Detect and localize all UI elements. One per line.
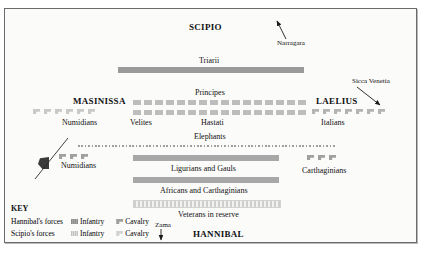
cavalry-token xyxy=(323,109,330,114)
infantry-swatch-icon xyxy=(71,231,78,236)
key-infantry-label: Infantry xyxy=(80,217,104,226)
commander-scipio: SCIPIO xyxy=(189,23,222,32)
cavalry-swatch-icon xyxy=(116,219,123,224)
cavalry-token xyxy=(70,154,77,159)
cavalry-token xyxy=(367,109,374,114)
unit-bar-hastati xyxy=(133,110,308,115)
arrow-narragara xyxy=(277,21,286,39)
unit-bar-principes xyxy=(133,100,308,105)
unit-tokens-roman-right-cavalry xyxy=(312,109,389,114)
unit-bar-ligurians-and-gauls xyxy=(133,155,279,161)
unit-label-elephants: Elephants xyxy=(194,133,226,141)
unit-label-carthaginian-numidians: Numidians xyxy=(61,162,96,170)
movement-arrowhead-left xyxy=(38,157,49,169)
commander-hannibal: HANNIBAL xyxy=(193,230,244,239)
battle-diagram-zama: SCIPIO Narragara Triarii Sicca Venetia P… xyxy=(0,0,423,255)
key-row-scipio: Scipio's forces Infantry Cavalry xyxy=(11,229,161,238)
unit-bar-triarii xyxy=(118,67,304,73)
infantry-swatch-icon xyxy=(71,219,78,224)
unit-label-italians: Italians xyxy=(321,119,345,127)
place-label-sicca-venetia: Sicca Venetia xyxy=(352,78,390,85)
cavalry-token xyxy=(88,109,95,114)
key-row-hannibal: Hannibal's forces Infantry Cavalry xyxy=(11,217,161,226)
unit-tokens-carthaginian-right-cavalry xyxy=(307,155,340,160)
key-cavalry-label: Cavalry xyxy=(125,217,149,226)
cavalry-token xyxy=(307,155,314,160)
unit-bar-veterans-in-reserve xyxy=(133,200,281,208)
cavalry-swatch-icon xyxy=(116,231,123,236)
cavalry-token xyxy=(81,154,88,159)
key-force-label: Hannibal's forces xyxy=(11,217,71,226)
unit-bar-africans-and-carthaginians xyxy=(133,177,279,183)
unit-bar-elephants xyxy=(78,145,335,147)
arrow-sicca-venetia xyxy=(357,87,380,105)
unit-label-principes: Principes xyxy=(195,89,225,97)
key-cavalry-label: Cavalry xyxy=(125,229,149,238)
cavalry-token xyxy=(356,109,363,114)
cavalry-token xyxy=(44,109,51,114)
cavalry-token xyxy=(312,109,319,114)
key-force-label: Scipio's forces xyxy=(11,229,71,238)
key-cell-cavalry: Cavalry xyxy=(116,229,149,238)
unit-label-triarii: Triarii xyxy=(199,57,219,65)
unit-label-carthaginians: Carthaginians xyxy=(302,167,346,175)
key-cell-cavalry: Cavalry xyxy=(116,217,149,226)
key-cell-infantry: Infantry xyxy=(71,229,104,238)
unit-tokens-carthaginian-left-cavalry xyxy=(59,154,92,159)
unit-tokens-roman-left-cavalry xyxy=(33,109,99,114)
unit-label-roman-numidians: Numidians xyxy=(62,119,97,127)
commander-laelius: LAELIUS xyxy=(316,97,358,106)
cavalry-token xyxy=(33,109,40,114)
diagram-plate: SCIPIO Narragara Triarii Sicca Venetia P… xyxy=(4,8,417,243)
place-label-narragara: Narragara xyxy=(277,40,305,47)
unit-label-hastati: Hastati xyxy=(201,119,224,127)
commander-masinissa: MASINISSA xyxy=(73,97,126,106)
unit-label-velites: Velites xyxy=(130,119,152,127)
unit-label-ligurians-and-gauls: Ligurians and Gauls xyxy=(171,165,236,173)
unit-label-africans-and-carthaginians: Africans and Carthaginians xyxy=(160,187,248,195)
cavalry-token xyxy=(77,109,84,114)
cavalry-token xyxy=(334,109,341,114)
key-title: KEY xyxy=(11,205,28,213)
cavalry-token xyxy=(345,109,352,114)
unit-label-veterans-in-reserve: Veterans in reserve xyxy=(178,211,239,219)
cavalry-token xyxy=(318,155,325,160)
cavalry-token xyxy=(329,155,336,160)
cavalry-token xyxy=(378,109,385,114)
key-infantry-label: Infantry xyxy=(80,229,104,238)
key-cell-infantry: Infantry xyxy=(71,217,104,226)
cavalry-token xyxy=(59,154,66,159)
cavalry-token xyxy=(55,109,62,114)
cavalry-token xyxy=(66,109,73,114)
